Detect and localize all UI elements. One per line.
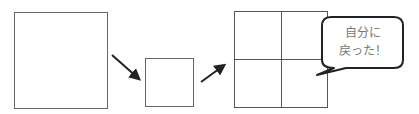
grid-square-2x2 <box>234 11 328 108</box>
large-square <box>15 13 108 109</box>
small-square <box>146 59 194 107</box>
arrow-tile <box>201 66 223 82</box>
arrow-shrink <box>112 55 138 78</box>
speech-line-1: 自分に <box>323 24 403 42</box>
speech-line-2: 戻った！ <box>323 42 403 60</box>
speech-bubble-text: 自分に 戻った！ <box>323 24 403 60</box>
